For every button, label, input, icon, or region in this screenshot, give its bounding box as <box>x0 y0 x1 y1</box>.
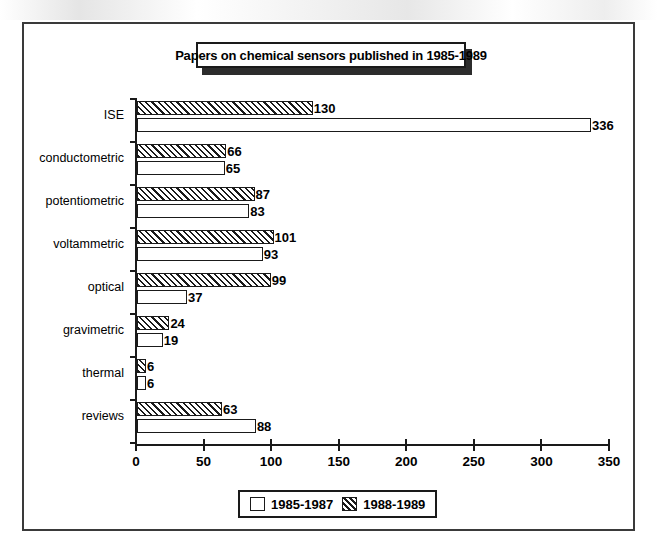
bar-value-gravimetric-older: 19 <box>164 334 178 347</box>
y-tick-7 <box>130 399 137 401</box>
bar-value-gravimetric-recent: 24 <box>170 317 184 330</box>
bar-optical-1988-1989[interactable]: 99 <box>137 273 271 287</box>
y-label-conductometric: conductometric <box>39 150 124 166</box>
bar-value-voltammetric-recent: 101 <box>275 231 297 244</box>
y-label-reviews: reviews <box>82 408 124 424</box>
chart-title-box: Papers on chemical sensors published in … <box>196 42 466 68</box>
x-label-150: 150 <box>327 454 350 469</box>
bar-value-reviews-recent: 63 <box>223 403 237 416</box>
x-tick-100 <box>270 439 272 451</box>
y-tick-6 <box>130 356 137 358</box>
chart-legend: 1985-1987 1988-1989 <box>238 490 437 518</box>
x-tick-300 <box>540 439 542 451</box>
bar-gravimetric-1988-1989[interactable]: 24 <box>137 316 169 330</box>
bar-value-potentiometric-recent: 87 <box>256 188 270 201</box>
bar-reviews-1985-1987[interactable]: 88 <box>137 419 256 433</box>
legend-entry-1988-1989[interactable]: 1988-1989 <box>342 497 425 512</box>
y-label-ise: ISE <box>104 107 124 123</box>
y-tick-5 <box>130 313 137 315</box>
bar-ise-1985-1987[interactable]: 336 <box>137 118 591 132</box>
bar-value-conductometric-older: 65 <box>226 162 240 175</box>
y-label-gravimetric: gravimetric <box>63 322 124 338</box>
x-axis-line <box>135 444 610 446</box>
bar-voltammetric-1985-1987[interactable]: 93 <box>137 247 263 261</box>
x-tick-0 <box>135 439 137 451</box>
bar-thermal-1985-1987[interactable]: 6 <box>137 376 146 390</box>
bar-value-reviews-older: 88 <box>257 420 271 433</box>
x-tick-150 <box>338 439 340 451</box>
x-label-250: 250 <box>463 454 486 469</box>
bar-value-thermal-older: 6 <box>147 377 154 390</box>
x-label-100: 100 <box>260 454 283 469</box>
chart-title: Papers on chemical sensors published in … <box>196 42 466 68</box>
bar-value-thermal-recent: 6 <box>147 360 154 373</box>
y-tick-4 <box>130 270 137 272</box>
bar-conductometric-1985-1987[interactable]: 65 <box>137 161 225 175</box>
x-label-0: 0 <box>132 454 140 469</box>
y-tick-0 <box>130 98 137 100</box>
x-label-200: 200 <box>395 454 418 469</box>
y-label-thermal: thermal <box>82 365 124 381</box>
y-label-optical: optical <box>88 279 124 295</box>
y-tick-3 <box>130 227 137 229</box>
x-label-350: 350 <box>598 454 621 469</box>
bar-conductometric-1988-1989[interactable]: 66 <box>137 144 226 158</box>
legend-entry-1985-1987[interactable]: 1985-1987 <box>250 497 333 512</box>
x-label-50: 50 <box>196 454 211 469</box>
legend-label-1988-1989: 1988-1989 <box>363 497 425 512</box>
bar-voltammetric-1988-1989[interactable]: 101 <box>137 230 274 244</box>
legend-swatch-open-icon <box>250 497 265 511</box>
bar-value-optical-recent: 99 <box>272 274 286 287</box>
bar-value-ise-older: 336 <box>592 119 614 132</box>
bar-ise-1988-1989[interactable]: 130 <box>137 101 313 115</box>
plot-area: 130 336 66 65 87 83 101 93 99 <box>135 98 635 448</box>
bar-value-ise-recent: 130 <box>314 102 336 115</box>
scan-noise-artifact <box>0 0 657 20</box>
bar-value-optical-older: 37 <box>188 291 202 304</box>
chart-title-text: Papers on chemical sensors published in … <box>175 48 487 63</box>
bar-thermal-1988-1989[interactable]: 6 <box>137 359 146 373</box>
legend-swatch-hatched-icon <box>342 497 357 511</box>
bar-value-potentiometric-older: 83 <box>250 205 264 218</box>
bar-potentiometric-1985-1987[interactable]: 83 <box>137 204 249 218</box>
y-label-voltammetric: voltammetric <box>53 236 124 252</box>
bar-value-conductometric-recent: 66 <box>227 145 241 158</box>
bar-reviews-1988-1989[interactable]: 63 <box>137 402 222 416</box>
bar-potentiometric-1988-1989[interactable]: 87 <box>137 187 255 201</box>
bar-gravimetric-1985-1987[interactable]: 19 <box>137 333 163 347</box>
bar-value-voltammetric-older: 93 <box>264 248 278 261</box>
y-tick-1 <box>130 141 137 143</box>
y-label-potentiometric: potentiometric <box>45 193 124 209</box>
y-axis-category-labels: ISE conductometric potentiometric voltam… <box>0 98 130 448</box>
x-tick-250 <box>473 439 475 451</box>
x-tick-350 <box>608 439 610 451</box>
x-tick-200 <box>405 439 407 451</box>
legend-label-1985-1987: 1985-1987 <box>271 497 333 512</box>
y-tick-2 <box>130 184 137 186</box>
x-tick-50 <box>203 439 205 451</box>
x-label-300: 300 <box>530 454 553 469</box>
bar-optical-1985-1987[interactable]: 37 <box>137 290 187 304</box>
